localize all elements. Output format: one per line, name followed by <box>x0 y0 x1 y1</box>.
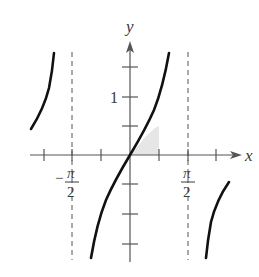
svg-text:2: 2 <box>67 184 75 200</box>
svg-text:π: π <box>67 165 75 181</box>
tan-branch-left <box>31 53 54 129</box>
svg-text:π: π <box>183 165 191 181</box>
x-axis-label: x <box>244 146 253 165</box>
tangent-graph: y x 1 − π 2 π 2 <box>0 0 259 277</box>
y-axis-label: y <box>124 17 134 36</box>
y-tick-label-1: 1 <box>110 89 118 106</box>
svg-text:2: 2 <box>183 184 191 200</box>
tan-branch-right <box>206 182 229 258</box>
svg-text:−: − <box>55 170 63 186</box>
x-tick-label-neg-pi-over-2: − π 2 <box>55 165 79 200</box>
x-tick-label-pi-over-2: π 2 <box>181 165 195 200</box>
